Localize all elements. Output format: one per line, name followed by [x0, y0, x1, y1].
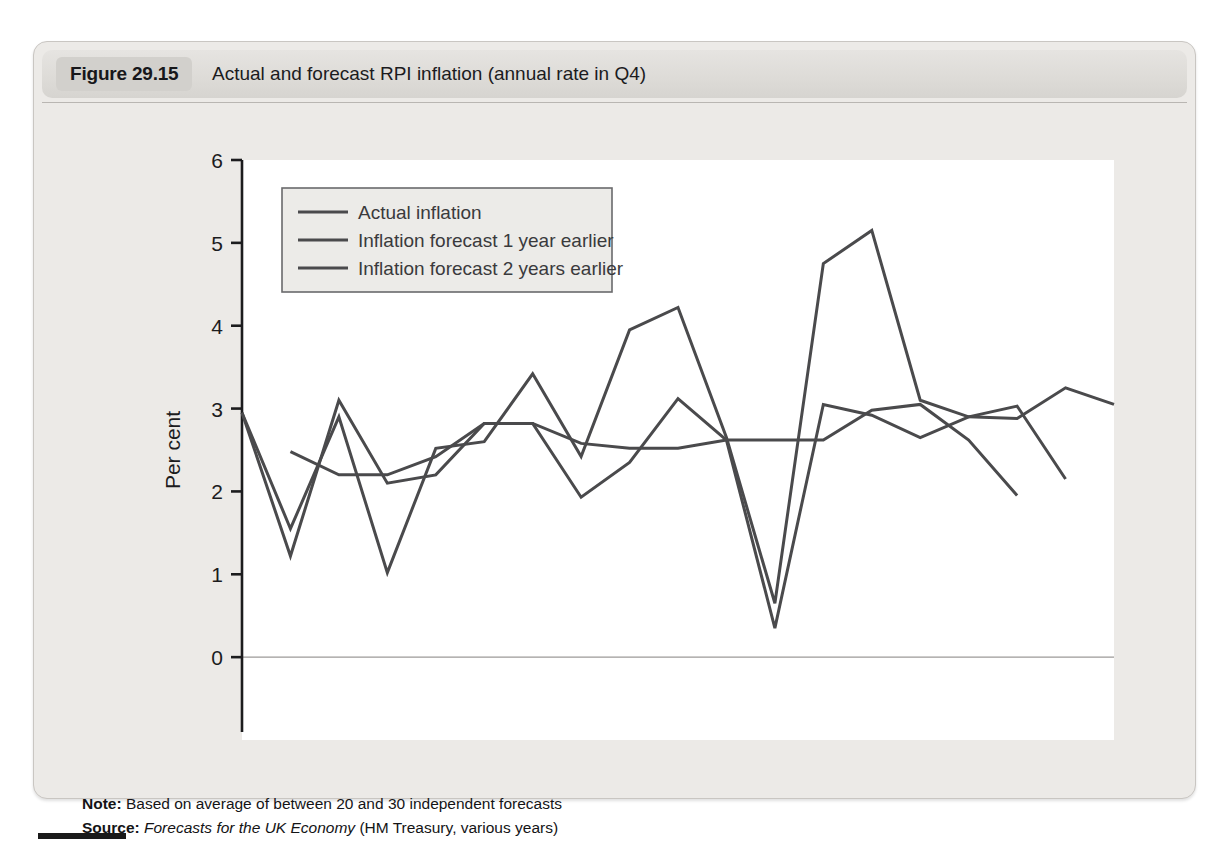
line-chart: −101234561998200020022004200620082010201…	[42, 104, 1187, 732]
y-axis-title: Per cent	[161, 411, 184, 489]
series-line-2	[242, 399, 1066, 629]
legend-label-1: Actual inflation	[358, 202, 482, 223]
figure-number-badge: Figure 29.15	[56, 57, 192, 91]
chart-area: −101234561998200020022004200620082010201…	[42, 104, 1187, 732]
source-rest: (HM Treasury, various years)	[359, 819, 558, 836]
y-tick-label: 1	[211, 563, 223, 586]
figure-panel: Figure 29.15 Actual and forecast RPI inf…	[33, 41, 1196, 799]
page-root: Figure 29.15 Actual and forecast RPI inf…	[0, 0, 1232, 845]
page-corner-mark	[38, 833, 126, 839]
header-divider	[42, 102, 1187, 103]
figure-header: Figure 29.15 Actual and forecast RPI inf…	[42, 50, 1187, 98]
figure-notes: Note: Based on average of between 20 and…	[82, 792, 1162, 840]
source-title: Forecasts for the UK Economy	[144, 819, 355, 836]
figure-caption: Actual and forecast RPI inflation (annua…	[212, 57, 646, 91]
y-tick-label: 6	[211, 149, 223, 172]
note-label: Note:	[82, 795, 122, 812]
y-tick-label: 4	[211, 315, 223, 338]
y-tick-label: −1	[199, 729, 223, 732]
y-tick-label: 5	[211, 232, 223, 255]
y-tick-label: 2	[211, 480, 223, 503]
legend-label-2: Inflation forecast 1 year earlier	[358, 230, 614, 251]
source-line: Source: Forecasts for the UK Economy (HM…	[82, 816, 1162, 840]
y-tick-label: 0	[211, 646, 223, 669]
note-line: Note: Based on average of between 20 and…	[82, 792, 1162, 816]
legend-label-3: Inflation forecast 2 years earlier	[358, 258, 624, 279]
y-tick-label: 3	[211, 398, 223, 421]
note-text: Based on average of between 20 and 30 in…	[126, 795, 562, 812]
